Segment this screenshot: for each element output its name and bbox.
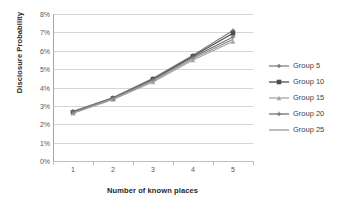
gridline	[53, 161, 253, 162]
legend-item[interactable]: Group 5	[268, 58, 344, 74]
y-axis-tick-label: 7%	[40, 29, 50, 36]
y-axis-tick-label: 8%	[40, 11, 50, 18]
legend-label: Group 25	[290, 126, 324, 134]
x-axis-tick-label: 1	[71, 166, 75, 173]
x-axis-tick-mark	[173, 161, 174, 165]
legend-label: Group 10	[290, 78, 324, 86]
x-axis-tick-mark	[253, 161, 254, 165]
x-axis-tick-mark	[53, 161, 54, 165]
series-group-5	[71, 28, 236, 113]
legend-label: Group 20	[290, 110, 324, 118]
legend-item[interactable]: Group 20	[268, 106, 344, 122]
legend-marker-icon	[268, 59, 290, 73]
y-axis-title: Disclosure Probability	[15, 0, 24, 108]
x-axis-tick-mark	[93, 161, 94, 165]
y-axis-tick-label: 2%	[40, 121, 50, 128]
y-axis-tick-label: 1%	[40, 139, 50, 146]
x-axis-tick-mark	[213, 161, 214, 165]
x-axis-tick-label: 2	[111, 166, 115, 173]
legend-item[interactable]: Group 15	[268, 90, 344, 106]
x-axis-tick-label: 5	[231, 166, 235, 173]
series-lines	[53, 14, 253, 161]
y-axis-tick-label: 5%	[40, 66, 50, 73]
legend-marker-icon	[268, 107, 290, 121]
series-group-10	[71, 31, 236, 115]
legend-marker-icon	[268, 123, 290, 137]
legend-label: Group 5	[290, 62, 320, 70]
y-axis-tick-label: 3%	[40, 102, 50, 109]
y-axis-tick-label: 0%	[40, 158, 50, 165]
x-axis-tick-mark	[133, 161, 134, 165]
legend-item[interactable]: Group 10	[268, 74, 344, 90]
y-axis-tick-label: 4%	[40, 84, 50, 91]
x-axis-tick-label: 3	[151, 166, 155, 173]
y-axis-tick-label: 6%	[40, 47, 50, 54]
x-axis-title: Number of known places	[45, 186, 260, 195]
legend-label: Group 15	[290, 94, 324, 102]
legend-item[interactable]: Group 25	[268, 122, 344, 138]
x-axis-tick-label: 4	[191, 166, 195, 173]
plot-area: 0%1%2%3%4%5%6%7%8% 12345	[53, 14, 253, 161]
legend-marker-icon	[268, 91, 290, 105]
chart-container: Disclosure Probability 0%1%2%3%4%5%6%7%8…	[0, 0, 344, 209]
legend-marker-icon	[268, 75, 290, 89]
chart-legend: Group 5Group 10Group 15Group 20Group 25	[268, 58, 344, 138]
